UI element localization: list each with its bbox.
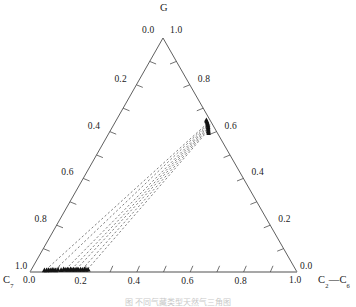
left-axis-tick-label: 0.2 [114,75,126,85]
vertex-label-bottom-left: C7 [3,275,14,288]
vertex-label-bottom-right: C2—C6 [318,275,350,288]
tie-line [46,122,209,269]
vertex-br-sub-a: 2 [325,282,328,289]
vertex-bl-subscript: 7 [10,282,13,289]
tie-line [66,124,210,269]
corner-value-bottom-one: 1.0 [289,276,301,286]
corner-value-bottom-zero: 0.0 [23,276,35,286]
figure-caption: 图 不同气藏类型天然气三角图 [0,296,356,307]
corner-value-right-bottom: 0.0 [300,262,312,272]
vertex-br-letter-b: C [339,274,346,285]
right-axis-ticks [170,61,284,251]
bottom-data-cluster [42,266,91,272]
bottom-axis-tick-label: 0.4 [128,277,140,287]
tie-line [82,126,210,269]
left-axis-tick-label: 0.8 [35,215,47,225]
tie-line [76,125,210,269]
triangle-axes [30,38,297,272]
tie-line [56,123,209,269]
corner-value-top-right: 1.0 [170,26,182,36]
right-axis-tick-label: 0.4 [251,168,263,178]
bottom-axis-tick-label: 0.6 [181,277,193,287]
right-axis-tick-label: 0.6 [225,122,237,132]
tie-lines-group [46,122,211,269]
vertex-br-dash: — [329,274,340,285]
corner-value-left-bottom: 1.0 [15,262,27,272]
left-axis-tick-label: 0.4 [88,122,100,132]
vertex-label-top: G [160,3,168,14]
corner-value-top-left: 0.0 [142,26,154,36]
vertex-br-sub-b: 6 [347,282,350,289]
bottom-axis-tick-label: 0.2 [74,277,86,287]
tie-line [72,125,210,270]
left-axis-ticks [43,61,156,251]
bottom-axis-tick-label: 0.8 [235,277,247,287]
ternary-diagram-figure: G C7 C2—C6 0.0 1.0 1.0 0.0 0.0 1.0 0.20.… [0,0,356,307]
right-axis-tick-label: 0.8 [198,75,210,85]
right-axis-tick-label: 0.2 [278,215,290,225]
tie-line [88,127,212,269]
left-axis-tick-label: 0.6 [61,168,73,178]
